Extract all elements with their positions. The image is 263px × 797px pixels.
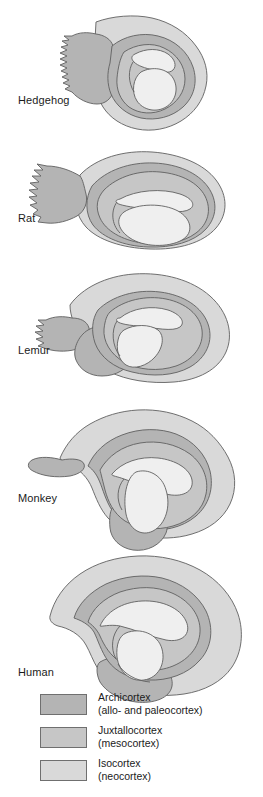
legend-item-juxtallocortex: Juxtallocortex (mesocortex) <box>40 727 260 755</box>
legend-text-juxtallocortex: Juxtallocortex (mesocortex) <box>98 724 258 749</box>
legend-swatch-isocortex <box>40 760 87 781</box>
legend-sublabel-isocortex: (neocortex) <box>98 770 258 783</box>
species-label-human: Human <box>18 666 54 678</box>
legend: Archicortex (allo- and paleocortex) Juxt… <box>40 694 260 789</box>
rat-olfactory-bulb <box>29 164 87 223</box>
brain-monkey <box>28 410 234 550</box>
legend-label-isocortex: Isocortex <box>98 757 258 770</box>
legend-item-archicortex: Archicortex (allo- and paleocortex) <box>40 694 260 722</box>
comparative-brain-figure: .iso { fill: #d9d9d9; stroke: #606060; s… <box>0 0 263 797</box>
legend-sublabel-juxtallocortex: (mesocortex) <box>98 737 258 750</box>
legend-text-isocortex: Isocortex (neocortex) <box>98 757 258 782</box>
species-label-lemur: Lemur <box>18 344 50 356</box>
brain-human <box>50 556 242 703</box>
brain-lemur <box>35 274 229 383</box>
species-label-hedgehog: Hedgehog <box>18 94 70 106</box>
legend-swatch-juxtallocortex <box>40 727 87 748</box>
species-label-rat: Rat <box>18 212 35 224</box>
legend-sublabel-archicortex: (allo- and paleocortex) <box>98 704 258 717</box>
monkey-ventricle <box>125 471 168 533</box>
species-label-monkey: Monkey <box>18 492 57 504</box>
monkey-ventral-tract <box>28 457 84 476</box>
legend-swatch-archicortex <box>40 694 87 715</box>
brain-rat <box>29 152 225 249</box>
legend-item-isocortex: Isocortex (neocortex) <box>40 760 260 788</box>
hedgehog-ventricle <box>134 69 177 110</box>
legend-label-juxtallocortex: Juxtallocortex <box>98 724 258 737</box>
legend-text-archicortex: Archicortex (allo- and paleocortex) <box>98 691 258 716</box>
legend-label-archicortex: Archicortex <box>98 691 258 704</box>
brain-hedgehog <box>60 16 207 130</box>
human-ventricle <box>117 631 163 680</box>
